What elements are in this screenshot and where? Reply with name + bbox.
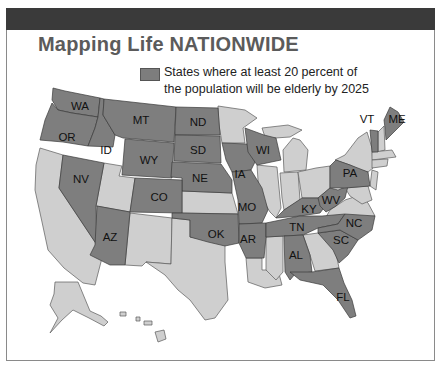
label-wy: WY [140, 154, 159, 166]
state-ct-ri [372, 159, 388, 168]
state-hi-3 [144, 321, 152, 325]
label-wv: WV [322, 194, 341, 206]
state-nj [370, 170, 378, 190]
state-mi [283, 138, 308, 172]
label-pa: PA [343, 167, 358, 179]
label-ky: KY [301, 203, 317, 215]
label-wa: WA [71, 100, 89, 112]
label-tn: TN [289, 221, 304, 233]
state-hi-4 [155, 330, 166, 342]
label-ne: NE [192, 172, 208, 184]
label-sd: SD [190, 144, 206, 156]
label-mo: MO [238, 201, 257, 213]
state-hi-1 [120, 312, 126, 316]
label-nd: ND [190, 116, 207, 128]
label-ar: AR [240, 233, 256, 245]
label-or: OR [58, 131, 75, 143]
label-vt: VT [360, 113, 375, 125]
label-co: CO [150, 191, 167, 203]
label-nv: NV [73, 173, 89, 185]
label-ia: IA [235, 168, 246, 180]
label-ok: OK [208, 228, 225, 240]
label-id: ID [100, 144, 112, 156]
label-fl: FL [336, 291, 350, 303]
state-nm [125, 213, 172, 266]
label-al: AL [289, 249, 304, 261]
state-ak [50, 282, 108, 333]
us-map: WA OR ID MT WY ND SD NE NV CO AZ OK IA M… [0, 0, 440, 369]
label-nc: NC [346, 217, 363, 229]
label-me: ME [388, 113, 406, 125]
label-wi: WI [256, 144, 270, 156]
label-mt: MT [133, 114, 150, 126]
label-az: AZ [103, 231, 118, 243]
label-sc: SC [333, 234, 349, 246]
state-ks [182, 191, 238, 214]
state-nh [378, 126, 385, 152]
state-hi-2 [136, 317, 140, 321]
